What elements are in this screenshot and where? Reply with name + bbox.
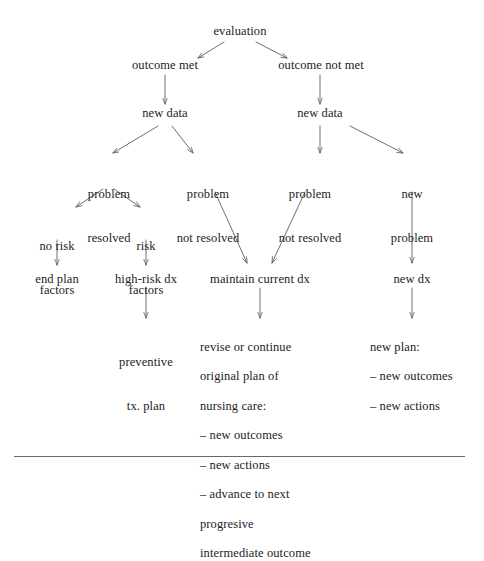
node-line: – new actions bbox=[200, 458, 360, 473]
node-line: original plan of bbox=[200, 369, 360, 384]
node-line: nursing care: bbox=[200, 399, 360, 414]
node-evaluation: evaluation bbox=[190, 24, 290, 39]
node-preventive-tx-plan: preventive tx. plan bbox=[100, 325, 192, 443]
node-line: not resolved bbox=[258, 231, 362, 246]
node-line: revise or continue bbox=[200, 340, 360, 355]
node-new-plan-block: new plan: – new outcomes – new actions bbox=[370, 325, 482, 428]
node-line: progresive bbox=[200, 517, 360, 532]
node-line: new bbox=[366, 187, 458, 202]
node-new-problem: new problem bbox=[366, 157, 458, 275]
node-line: intermediate outcome bbox=[200, 546, 360, 561]
node-high-risk-dx: high-risk dx bbox=[98, 272, 194, 287]
node-line: risk bbox=[106, 239, 186, 254]
node-line: no risk bbox=[14, 239, 100, 254]
edge-new-data-left-to-problem-not-resolved bbox=[172, 126, 193, 153]
node-line: – new outcomes bbox=[200, 428, 360, 443]
node-line: – advance to next bbox=[200, 487, 360, 502]
node-maintain-current-dx: maintain current dx bbox=[192, 272, 328, 287]
node-new-dx: new dx bbox=[368, 272, 456, 287]
node-new-data-left: new data bbox=[115, 106, 215, 121]
node-line: problem bbox=[63, 187, 155, 202]
node-new-data-right: new data bbox=[270, 106, 370, 121]
node-line: preventive bbox=[100, 355, 192, 370]
node-line: – new actions bbox=[370, 399, 482, 414]
edge-new-data-right-to-new-problem bbox=[350, 126, 403, 153]
edge-evaluation-to-outcome-not-met bbox=[256, 42, 287, 58]
node-end-plan: end plan bbox=[12, 272, 102, 287]
node-line: new plan: bbox=[370, 340, 482, 355]
node-outcome-not-met: outcome not met bbox=[265, 58, 377, 73]
node-line: – new outcomes bbox=[370, 369, 482, 384]
edge-evaluation-to-outcome-met bbox=[198, 42, 224, 58]
node-line: problem bbox=[366, 231, 458, 246]
node-line: problem bbox=[156, 187, 260, 202]
node-risk-factors: risk factors bbox=[106, 209, 186, 327]
node-line: problem bbox=[258, 187, 362, 202]
bottom-divider-rule bbox=[14, 456, 465, 457]
edge-new-data-left-to-problem-resolved bbox=[113, 126, 158, 153]
node-line: tx. plan bbox=[100, 399, 192, 414]
node-revise-plan-block: revise or continue original plan of nurs… bbox=[200, 325, 360, 561]
node-problem-not-resolved-b: problem not resolved bbox=[258, 157, 362, 275]
node-no-risk-factors: no risk factors bbox=[14, 209, 100, 327]
node-outcome-met: outcome met bbox=[115, 58, 215, 73]
